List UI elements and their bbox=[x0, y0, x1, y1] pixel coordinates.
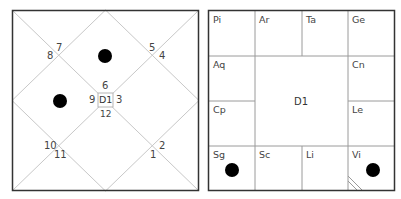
house-number-1: 1 bbox=[150, 150, 156, 160]
planet-marker-house-6 bbox=[98, 49, 112, 63]
sign-label-pisces: Pi bbox=[213, 15, 221, 25]
house-number-6: 6 bbox=[102, 81, 108, 91]
house-number-12: 12 bbox=[100, 110, 111, 119]
planet-marker-sagittarius bbox=[225, 163, 239, 177]
north-chart-center-label: D1 bbox=[99, 94, 112, 105]
sign-label-aries: Ar bbox=[259, 15, 269, 25]
planet-marker-house-9 bbox=[53, 94, 67, 108]
sign-label-gemini: Ge bbox=[352, 15, 365, 25]
sign-label-aquarius: Aq bbox=[213, 60, 225, 70]
sign-label-capricorn: Cp bbox=[213, 105, 226, 115]
south-chart-center-label: D1 bbox=[294, 96, 308, 107]
sign-label-scorpio: Sc bbox=[259, 150, 270, 160]
house-number-11: 11 bbox=[54, 150, 67, 160]
sign-label-cancer: Cn bbox=[352, 60, 365, 70]
sign-label-libra: Li bbox=[306, 150, 314, 160]
sign-label-virgo: Vi bbox=[352, 150, 361, 160]
house-number-9: 9 bbox=[89, 95, 95, 105]
house-number-7: 7 bbox=[56, 43, 62, 53]
house-number-2: 2 bbox=[159, 141, 165, 151]
house-number-4: 4 bbox=[159, 51, 165, 61]
north-indian-chart: D1 6 9 3 12 7 8 5 4 10 11 2 1 bbox=[0, 0, 200, 199]
house-number-5: 5 bbox=[149, 43, 155, 53]
house-number-3: 3 bbox=[116, 95, 122, 105]
sign-label-sagittarius: Sg bbox=[213, 150, 225, 160]
sign-label-taurus: Ta bbox=[306, 15, 316, 25]
house-number-8: 8 bbox=[47, 51, 53, 61]
planet-marker-virgo bbox=[366, 163, 380, 177]
sign-label-leo: Le bbox=[352, 105, 363, 115]
